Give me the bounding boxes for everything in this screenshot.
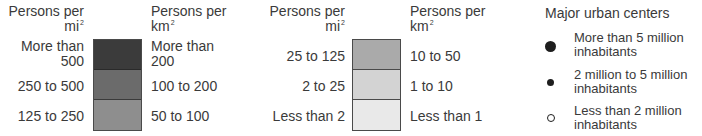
mi-label-row-6: Less than 2	[245, 109, 345, 124]
km-label-row-1: More than 200	[151, 39, 214, 69]
density-swatch-high	[93, 39, 142, 131]
swatch-more-than-500	[94, 40, 141, 70]
km-unit: km2	[410, 19, 485, 36]
km-label-row-2: 100 to 200	[151, 79, 217, 94]
superscript: 2	[430, 19, 434, 26]
city-item-1: More than 5 million inhabitants	[574, 31, 684, 59]
city-item-line1: Less than 2 million	[574, 104, 682, 118]
cities-legend-title: Major urban centers	[545, 6, 670, 21]
swatch-125-to-250	[94, 100, 141, 130]
swatch-25-to-125	[353, 40, 400, 70]
hollow-dot-icon	[547, 114, 555, 122]
mi-label-row-4: 25 to 125	[245, 49, 345, 64]
km-unit-text: km	[410, 18, 429, 34]
mi-label-line2: 500	[0, 54, 84, 69]
mi-unit-text: mi	[64, 18, 79, 34]
km-unit: km2	[151, 19, 226, 36]
superscript: 2	[341, 19, 345, 26]
city-item-line2: inhabitants	[574, 118, 682, 132]
km-label-row-5: 1 to 10	[410, 79, 453, 94]
km-header-1: Persons per km2	[151, 4, 226, 36]
mi-unit: mi2	[0, 19, 84, 36]
km-label-row-6: Less than 1	[410, 109, 482, 124]
mi-label-row-5: 2 to 25	[245, 79, 345, 94]
mi-label-row-1: More than 500	[0, 39, 84, 69]
city-item-line1: 2 million to 5 million	[574, 68, 687, 82]
km-header-text: Persons per	[151, 4, 226, 19]
mi-unit: mi2	[245, 19, 345, 36]
mi-header-2: Persons per mi2	[245, 4, 345, 36]
km-label-line2: 200	[151, 54, 214, 69]
density-swatch-low	[352, 39, 401, 131]
mi-header-text: Persons per	[0, 4, 84, 19]
mi-label-row-3: 125 to 250	[0, 109, 84, 124]
km-label-row-4: 10 to 50	[410, 49, 461, 64]
city-item-line2: inhabitants	[574, 45, 684, 59]
superscript: 2	[171, 19, 175, 26]
mi-header-1: Persons per mi2	[0, 4, 84, 36]
city-item-line1: More than 5 million	[574, 31, 684, 45]
swatch-2-to-25	[353, 70, 400, 100]
mi-unit-text: mi	[325, 18, 340, 34]
city-item-3: Less than 2 million inhabitants	[574, 104, 682, 132]
mi-label-line1: More than	[0, 39, 84, 54]
swatch-less-than-2	[353, 100, 400, 130]
large-filled-dot-icon	[545, 41, 556, 52]
small-filled-dot-icon	[547, 79, 554, 86]
mi-label-row-2: 250 to 500	[0, 79, 84, 94]
city-item-2: 2 million to 5 million inhabitants	[574, 68, 687, 96]
swatch-250-to-500	[94, 70, 141, 100]
km-header-2: Persons per km2	[410, 4, 485, 36]
mi-header-text: Persons per	[245, 4, 345, 19]
km-label-line1: More than	[151, 39, 214, 54]
superscript: 2	[80, 19, 84, 26]
km-header-text: Persons per	[410, 4, 485, 19]
city-item-line2: inhabitants	[574, 82, 687, 96]
km-unit-text: km	[151, 18, 170, 34]
km-label-row-3: 50 to 100	[151, 109, 209, 124]
